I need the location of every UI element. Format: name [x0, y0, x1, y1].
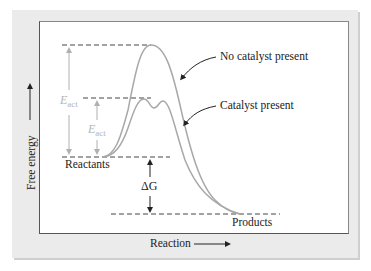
catalyst-leader: [185, 106, 216, 124]
catalyst-label: Catalyst present: [220, 99, 294, 111]
eact-catalyzed-label: Eact: [88, 122, 106, 138]
x-axis-label: Reaction: [150, 237, 191, 249]
no-catalyst-curve: [103, 45, 240, 214]
y-axis-label: Free energy: [25, 136, 37, 190]
reactants-label: Reactants: [65, 158, 110, 170]
no-catalyst-label: No catalyst present: [220, 50, 308, 62]
eact-uncatalyzed-label: Eact: [60, 93, 78, 109]
energy-diagram: [0, 0, 371, 271]
catalyst-curve: [103, 99, 240, 214]
products-label: Products: [232, 216, 272, 228]
delta-g-label: ΔG: [141, 179, 157, 194]
no-catalyst-leader: [182, 57, 216, 78]
